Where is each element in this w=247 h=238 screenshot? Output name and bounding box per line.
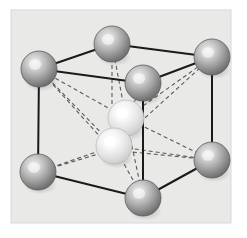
atom-sphere (194, 39, 230, 75)
atom-corner-front-right (194, 142, 231, 182)
atom-interior-lower (96, 128, 133, 168)
atom-highlight (28, 162, 40, 173)
atom-sphere (125, 180, 161, 216)
crystal-unit-cell-diagram (0, 0, 247, 238)
atom-corner-front-top (125, 65, 162, 105)
atom-highlight (202, 150, 214, 161)
atom-sphere (20, 154, 56, 190)
atom-corner-back-top (94, 26, 131, 66)
atom-sphere (94, 26, 130, 62)
atom-sphere (194, 142, 230, 178)
atom-highlight (133, 188, 145, 199)
atom-highlight (29, 59, 41, 70)
figure-root (0, 0, 247, 238)
atom-highlight (116, 108, 128, 119)
atom-highlight (104, 136, 116, 147)
atom-highlight (133, 73, 145, 84)
atom-sphere (96, 128, 132, 164)
atom-highlight (202, 47, 214, 58)
atom-corner-front-bottom (125, 180, 162, 220)
atom-sphere (125, 65, 161, 101)
atom-corner-back-right (194, 39, 231, 79)
atom-highlight (102, 34, 114, 45)
atom-corner-back-left (21, 51, 58, 91)
atom-sphere (21, 51, 57, 87)
atom-corner-front-left (20, 154, 57, 194)
